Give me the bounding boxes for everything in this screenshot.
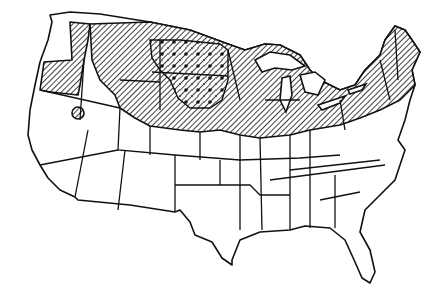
us-map <box>0 0 432 294</box>
us-map-svg <box>0 0 432 294</box>
nevada-patch <box>72 107 84 119</box>
